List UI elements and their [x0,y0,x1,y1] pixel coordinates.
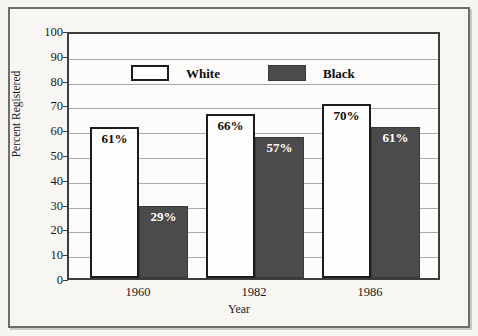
legend-label-white: White [186,66,220,82]
bar-black-1982[interactable]: 57% [255,137,304,278]
bar-black-1986[interactable]: 61% [371,127,420,278]
y-axis-tick-labels: 100 90 80 70 60 50 40 30 20 10 0 [31,32,63,280]
y-tick-40: 40 [35,175,63,188]
legend-swatch-black [268,65,306,81]
x-axis-title: Year [0,302,478,317]
y-tick-80: 80 [35,76,63,89]
y-tick-100: 100 [35,26,63,39]
bar-white-1982[interactable]: 66% [206,114,255,278]
y-tick-20: 20 [35,224,63,237]
bar-label-white-1982: 66% [208,119,253,133]
bar-label-black-1960: 29% [140,210,187,224]
y-tick-50: 50 [35,150,63,163]
x-tick-1982: 1982 [219,285,289,300]
legend-label-black: Black [323,66,355,82]
y-tick-10: 10 [35,249,63,262]
x-tick-1960: 1960 [103,285,173,300]
bar-label-white-1986: 70% [324,109,369,123]
chart-screenshot: 100 90 80 70 60 50 40 30 20 10 0 Percent… [0,0,478,336]
plot-area: 61% 29% 66% 57% 70% 61% White Black [67,32,440,280]
y-tick-0: 0 [35,274,63,287]
bar-black-1960[interactable]: 29% [139,206,188,278]
bar-white-1986[interactable]: 70% [322,104,371,278]
bar-white-1960[interactable]: 61% [90,127,139,278]
bar-label-black-1982: 57% [256,141,303,155]
y-tick-60: 60 [35,125,63,138]
y-tick-30: 30 [35,200,63,213]
y-tick-70: 70 [35,100,63,113]
y-tick-90: 90 [35,51,63,64]
x-tick-1986: 1986 [335,285,405,300]
bar-label-black-1986: 61% [372,131,419,145]
y-axis-title: Percent Registered [10,49,22,179]
bar-label-white-1960: 61% [92,132,137,146]
legend-swatch-white [131,65,169,81]
